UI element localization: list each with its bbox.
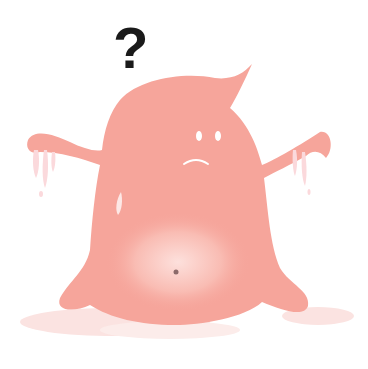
left-eye: [196, 131, 202, 141]
question-mark: ?: [113, 15, 148, 80]
belly-highlight: [106, 212, 250, 312]
blob-illustration: ?: [0, 0, 368, 369]
right-eye: [215, 131, 221, 141]
left-arm-drips: [33, 150, 55, 197]
navel: [174, 270, 179, 275]
